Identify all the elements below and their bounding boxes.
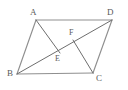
segment-bc bbox=[17, 73, 93, 74]
segment-cf bbox=[73, 40, 93, 73]
point-label-e: E bbox=[55, 55, 60, 63]
segment-dc bbox=[93, 20, 112, 73]
segment-ae bbox=[36, 20, 60, 53]
vertex-label-a: A bbox=[30, 8, 37, 17]
point-label-f: F bbox=[69, 29, 73, 37]
segment-bd-diagonal bbox=[17, 20, 112, 74]
vertex-label-c: C bbox=[96, 74, 102, 83]
geometry-figure: A D B C E F bbox=[0, 0, 128, 90]
segment-ab bbox=[17, 20, 36, 74]
vertex-label-d: D bbox=[107, 8, 114, 17]
vertex-label-b: B bbox=[7, 69, 13, 78]
